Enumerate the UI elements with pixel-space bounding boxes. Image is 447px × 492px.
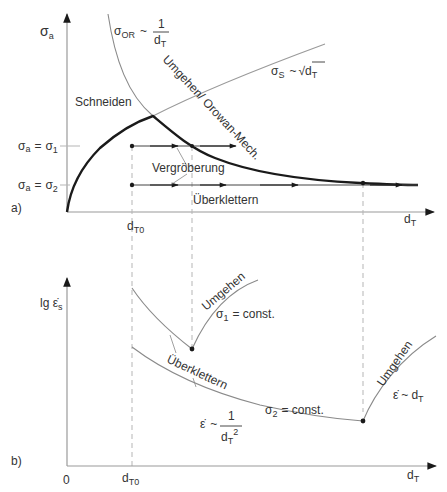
sigma2-creep-curve — [132, 347, 363, 421]
panel-b-tag: b) — [11, 454, 22, 468]
label-sigma2-const: σ2= const. — [265, 403, 324, 419]
label-sigma1-const: σ1= const. — [216, 307, 275, 323]
dispersion-hardening-diagram: σa σOR~ 1 dT σS~√dT Schneiden Umgehen/ O… — [0, 0, 447, 492]
label-vergroeberung: Vergröberung — [152, 161, 225, 175]
vergroeberung-leader-bottom — [172, 174, 187, 184]
sigma1-transition-dot — [190, 347, 195, 352]
panel-b: lg ε̇s Umgehen σ1= const. Überklettern σ… — [11, 269, 436, 487]
sigma2-transition-dot — [361, 419, 366, 424]
panel-b-y-label: lg ε̇s — [40, 296, 63, 312]
rate-numerator: 1 — [228, 409, 235, 423]
level-sigma2-label: σa=σ2 — [18, 178, 58, 194]
panel-a-tag: a) — [11, 201, 22, 215]
sigma1-creep-curve — [132, 288, 192, 349]
level-sigma1-label: σa=σ1 — [18, 139, 58, 155]
label-umgehen-b2: Umgehen — [374, 338, 415, 389]
sigma2-end-dot — [361, 181, 365, 185]
sigma-or-numerator: 1 — [158, 17, 165, 31]
panel-a-dT0-tick: dT0 — [127, 219, 144, 235]
label-rate-inverse-square: ε̇~ — [200, 417, 217, 431]
sigma-or-denominator: dT — [154, 33, 167, 49]
label-ueberklettern-b: Überklettern — [165, 352, 230, 392]
region-schneiden: Schneiden — [75, 95, 132, 109]
sigma1-intersection-dot — [190, 144, 194, 148]
sigma-s-formula: σS~√dT — [271, 64, 318, 80]
panel-b-x-label: dT — [407, 468, 420, 484]
panel-a: σa σOR~ 1 dT σS~√dT Schneiden Umgehen/ O… — [11, 14, 434, 470]
sigma1-start-dot — [130, 144, 134, 148]
panel-b-origin: 0 — [63, 473, 70, 487]
ueberklettern-leader-1 — [170, 335, 176, 353]
label-rate-linear: ε̇~dT — [393, 388, 424, 404]
sigma2-start-dot — [130, 183, 134, 187]
sigma-or-formula: σOR~ — [114, 24, 147, 40]
rate-denominator: dT2 — [221, 427, 238, 446]
panel-a-x-label: dT — [404, 212, 417, 228]
panel-b-dT0-tick: dT0 — [122, 471, 139, 487]
label-ueberklettern-a: Überklettern — [193, 193, 258, 207]
panel-a-y-label: σa — [40, 23, 54, 41]
